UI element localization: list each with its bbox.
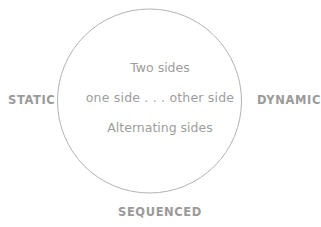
inner-text-line-1: Two sides	[0, 62, 320, 92]
inner-text-line-3: Alternating sides	[0, 122, 320, 152]
inner-text-line-2: one side . . . other side	[0, 92, 320, 122]
circle-inner-text-group: Two sides one side . . . other side Alte…	[0, 62, 320, 152]
axis-label-sequenced: SEQUENCED	[0, 207, 320, 219]
